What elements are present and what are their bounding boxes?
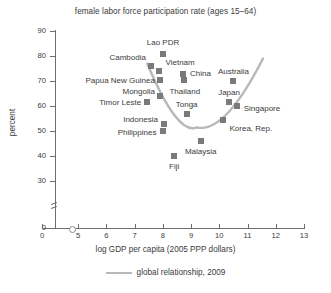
y-axis-line — [55, 30, 56, 229]
data-point-label: China — [190, 69, 211, 78]
data-point-marker — [157, 93, 163, 99]
x-tick-13 — [304, 224, 305, 229]
y-axis-break-icon — [51, 202, 57, 210]
data-point-marker — [181, 77, 187, 83]
y-tick-label-70: 70 — [20, 76, 46, 85]
x-tick-11 — [248, 224, 249, 229]
data-point-label: Fiji — [169, 162, 179, 171]
data-point-label: Thailand — [169, 87, 200, 96]
y-tick-label-80: 80 — [20, 51, 46, 60]
plot-area: 030405060708090 05678910111213 percent l… — [0, 0, 331, 293]
data-point-label: Philippines — [118, 128, 157, 137]
x-tick-label-0: 0 — [30, 231, 54, 240]
data-point-marker — [161, 121, 167, 127]
data-point-label: Mongolia — [122, 87, 154, 96]
data-point-marker — [226, 99, 232, 105]
x-tick-label-7: 7 — [123, 231, 147, 240]
legend-line-swatch — [106, 272, 132, 275]
y-tick-30 — [50, 181, 55, 182]
data-point-marker — [156, 68, 162, 74]
y-tick-label-60: 60 — [20, 101, 46, 110]
x-tick-0 — [42, 224, 43, 229]
x-tick-label-13: 13 — [292, 231, 316, 240]
x-tick-5 — [78, 224, 79, 229]
y-tick-80 — [50, 56, 55, 57]
x-tick-10 — [219, 224, 220, 229]
data-point-marker — [184, 111, 190, 117]
x-tick-label-8: 8 — [151, 231, 175, 240]
y-tick-70 — [50, 81, 55, 82]
chart-figure: female labor force participation rate (a… — [0, 0, 331, 293]
chart-legend: global relationship, 2009 — [0, 268, 331, 277]
y-tick-0 — [50, 228, 55, 229]
y-tick-label-90: 90 — [20, 26, 46, 35]
data-point-marker — [144, 99, 150, 105]
data-point-label: Japan — [218, 88, 240, 97]
data-point-label: Malaysia — [185, 147, 217, 156]
data-point-label: Vietnam — [166, 58, 195, 67]
data-point-marker — [160, 128, 166, 134]
data-point-marker — [220, 117, 226, 123]
y-tick-40 — [50, 156, 55, 157]
data-point-marker — [171, 153, 177, 159]
x-tick-12 — [276, 224, 277, 229]
data-point-marker — [180, 71, 186, 77]
x-tick-label-9: 9 — [179, 231, 203, 240]
y-tick-60 — [50, 106, 55, 107]
x-tick-label-12: 12 — [264, 231, 288, 240]
legend-label: global relationship, 2009 — [137, 268, 226, 277]
x-tick-label-6: 6 — [94, 231, 118, 240]
data-point-marker — [160, 51, 166, 57]
x-tick-6 — [106, 224, 107, 229]
data-point-label: Cambodia — [109, 53, 145, 62]
data-point-marker — [230, 78, 236, 84]
x-tick-8 — [163, 224, 164, 229]
x-axis-title: log GDP per capita (2005 PPP dollars) — [0, 245, 331, 254]
data-point-marker — [234, 103, 240, 109]
y-tick-label-50: 50 — [20, 126, 46, 135]
y-tick-label-30: 30 — [20, 176, 46, 185]
y-tick-50 — [50, 131, 55, 132]
y-tick-label-40: 40 — [20, 151, 46, 160]
x-tick-9 — [191, 224, 192, 229]
data-point-label: Korea, Rep. — [229, 124, 272, 133]
data-point-marker — [157, 77, 163, 83]
data-point-label: Lao PDR — [147, 38, 179, 47]
y-tick-90 — [50, 31, 55, 32]
data-point-label: Papua New Guinea — [85, 76, 154, 85]
data-point-marker — [198, 138, 204, 144]
y-axis-title: percent — [8, 93, 17, 153]
x-tick-label-11: 11 — [236, 231, 260, 240]
data-point-label: Tonga — [176, 100, 198, 109]
x-tick-label-5: 5 — [66, 231, 90, 240]
x-tick-7 — [135, 224, 136, 229]
data-point-label: Timor Leste — [99, 98, 141, 107]
data-point-label: Australia — [218, 67, 249, 76]
data-point-label: Indonesia — [123, 115, 158, 124]
data-point-marker — [148, 63, 154, 69]
x-axis-line — [42, 228, 305, 229]
data-point-label: Singapore — [244, 104, 280, 113]
x-tick-label-10: 10 — [207, 231, 231, 240]
